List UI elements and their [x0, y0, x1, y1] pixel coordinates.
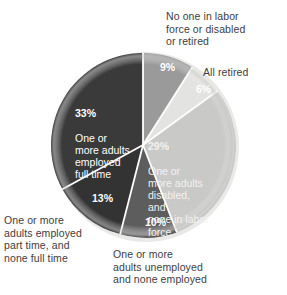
slice-percent-all-retired: 6% — [196, 83, 211, 95]
callout-label-unemployed: One or more adults unemployed and none e… — [113, 248, 263, 286]
callout-label-none-in-labor-force: No one in labor force or disabled or ret… — [166, 10, 284, 48]
slice-percent-part-time: 13% — [92, 192, 113, 204]
callout-label-part-time: One or more adults employed part time, a… — [4, 214, 112, 264]
slice-label-full-time: 33% One or more adults employed full tim… — [75, 95, 137, 180]
slice-percent-unemployed: 10% — [145, 216, 166, 228]
slice-text-full-time: One or more adults employed full time — [75, 132, 130, 181]
slice-percent-full-time: 33% — [75, 107, 137, 119]
slice-percent-none-in-labor-force: 9% — [160, 61, 175, 73]
slice-percent-disabled: 29% — [148, 140, 210, 152]
pie-chart: No one in labor force or disabled or ret… — [0, 0, 287, 295]
callout-label-all-retired: All retired — [203, 66, 285, 79]
